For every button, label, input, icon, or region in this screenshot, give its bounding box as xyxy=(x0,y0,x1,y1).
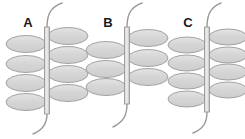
leaflet-right-4-a xyxy=(48,85,88,102)
leaflet-left-4-a xyxy=(6,94,46,111)
rachis-b xyxy=(125,27,130,104)
leaflet-left-3-a xyxy=(6,75,46,92)
leaflet-left-1-a xyxy=(6,36,46,53)
leaflet-left-3-c xyxy=(168,73,206,89)
leaflet-right-3-c xyxy=(209,64,245,80)
frond-diagram-figure: ABC xyxy=(0,0,245,139)
panel-label-a: A xyxy=(23,15,33,30)
leaflet-right-1-a xyxy=(48,28,88,45)
leaflet-left-1-c xyxy=(168,37,206,53)
leaflet-left-2-c xyxy=(168,55,206,71)
rachis-c xyxy=(205,27,210,112)
leaflet-left-3-b xyxy=(86,79,126,96)
leaflet-left-2-a xyxy=(6,56,46,73)
leaflet-right-3-a xyxy=(48,66,88,83)
panel-label-c: C xyxy=(183,15,193,30)
leaflet-right-2-c xyxy=(209,47,245,63)
leaflet-right-2-a xyxy=(48,47,88,64)
leaflet-left-2-b xyxy=(86,61,126,78)
leaflet-right-1-c xyxy=(209,29,245,45)
leaflet-right-2-b xyxy=(128,50,168,67)
leaflet-right-1-b xyxy=(128,30,168,47)
leaflet-left-1-b xyxy=(86,42,126,59)
leaflet-right-4-c xyxy=(209,82,245,98)
rachis-a xyxy=(45,27,50,114)
leaflet-right-3-b xyxy=(128,69,168,86)
panel-label-b: B xyxy=(103,15,112,30)
leaflet-left-4-c xyxy=(168,91,206,107)
frond-diagram-canvas: ABC xyxy=(0,0,245,139)
